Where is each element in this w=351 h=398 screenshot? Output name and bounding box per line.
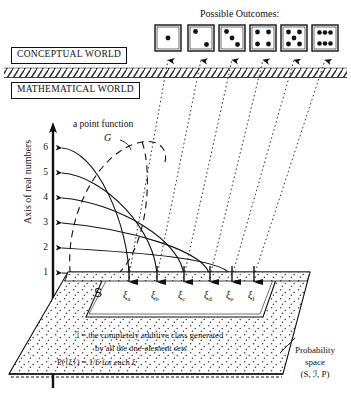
die-face-1 xyxy=(155,25,181,51)
axis-tick-2: 2 xyxy=(36,243,48,253)
outcome-point-a-sub: a xyxy=(127,295,130,303)
probability-space-caption-line-2: space xyxy=(282,356,348,368)
conceptual-world-label: CONCEPTUAL WORLD xyxy=(11,47,127,64)
plane-top-strip xyxy=(65,272,310,281)
outcome-mapping-dotted-lines xyxy=(129,60,325,276)
die-face-3 xyxy=(219,25,245,51)
axis-tick-5: 5 xyxy=(36,168,48,178)
world-separator-band xyxy=(4,68,347,78)
axis-tick-1: 1 xyxy=(36,268,48,278)
possible-outcomes-title: Possible Outcomes: xyxy=(200,9,279,19)
axis-of-real-numbers-title: Axis of real numbers xyxy=(23,132,33,232)
point-function-envelope xyxy=(70,142,166,285)
probability-space-caption: Probability space (S, ℐ, P) xyxy=(282,344,348,380)
dice-group xyxy=(155,25,338,51)
outcome-point-d-sub: d xyxy=(208,295,212,303)
mathematical-world-label: MATHEMATICAL WORLD xyxy=(11,82,140,99)
axis-tick-3: 3 xyxy=(36,218,48,228)
sample-space-label: S xyxy=(94,287,102,299)
point-function-symbol: G xyxy=(104,133,111,143)
outcome-point-d: ξd xyxy=(204,289,212,303)
outcome-point-f-sub: f xyxy=(252,295,254,303)
die-face-5 xyxy=(281,25,307,51)
outcome-point-e: ξe xyxy=(226,289,233,303)
outcome-point-c-sub: c xyxy=(182,295,185,303)
additive-class-line-2: by all the one-element sets xyxy=(95,343,187,353)
outcome-point-b-sub: b xyxy=(155,295,159,303)
probability-space-caption-line-1: Probability xyxy=(282,344,348,356)
die-face-2 xyxy=(188,25,214,51)
g-label-leader xyxy=(120,140,131,150)
die-face-6 xyxy=(312,25,338,51)
point-function-caption: a point function xyxy=(73,120,133,130)
outcome-point-e-sub: e xyxy=(230,295,233,303)
axis-tick-4: 4 xyxy=(36,193,48,203)
die-face-4 xyxy=(250,25,276,51)
probability-measure-line: P({ξ}) = 1/6 for each ξ xyxy=(57,357,136,367)
point-function-curves xyxy=(62,148,254,278)
figure-canvas: Possible Outcomes: CONCEPTUAL WORLD MATH… xyxy=(0,0,351,398)
outcome-point-b: ξb xyxy=(151,289,159,303)
probability-space-caption-line-3: (S, ℐ, P) xyxy=(282,368,348,380)
outcome-point-c: ξc xyxy=(178,289,185,303)
axis-tick-6: 6 xyxy=(36,143,48,153)
outcome-point-a: ξa xyxy=(123,289,130,303)
outcome-point-f: ξf xyxy=(248,289,255,303)
additive-class-line-1: ℐ = the completely additive class genera… xyxy=(75,330,223,340)
